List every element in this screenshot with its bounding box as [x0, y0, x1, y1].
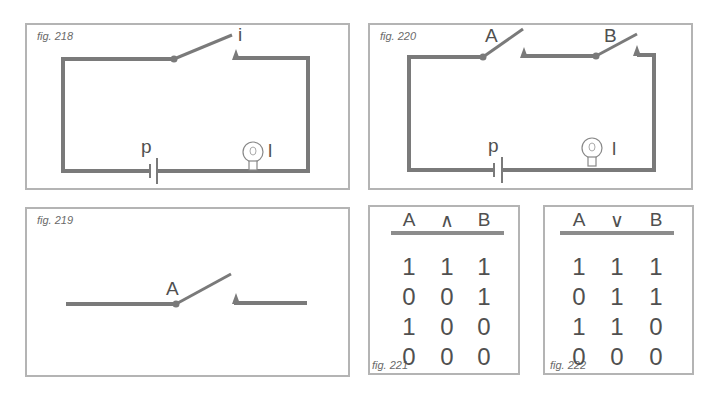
cell: 1 — [641, 283, 671, 311]
cell: 0 — [641, 313, 671, 341]
figure-220-panel: fig. 220 — [368, 23, 693, 190]
cell: 1 — [469, 253, 499, 281]
header-a: A — [394, 209, 424, 231]
cell: 1 — [641, 253, 671, 281]
cell: 0 — [394, 283, 424, 311]
cell: 1 — [394, 253, 424, 281]
cell: 1 — [394, 313, 424, 341]
header-or-operator: ∨ — [602, 209, 632, 232]
cell: 0 — [432, 313, 462, 341]
cell: 1 — [469, 283, 499, 311]
switch-pivot-icon — [171, 56, 178, 63]
cell: 0 — [394, 343, 424, 371]
cell: 0 — [564, 343, 594, 371]
cell: 0 — [641, 343, 671, 371]
header-a: A — [564, 209, 594, 231]
header-rule — [391, 231, 504, 235]
lamp-label: l — [612, 138, 616, 160]
cell: 1 — [602, 283, 632, 311]
switch-b-label: B — [604, 25, 617, 47]
header-and-operator: ∧ — [432, 209, 462, 232]
cell: 1 — [564, 253, 594, 281]
cell: 1 — [432, 253, 462, 281]
cell: 0 — [469, 343, 499, 371]
figure-219-panel: fig. 219 — [25, 207, 350, 377]
figure-label: fig. 219 — [37, 214, 73, 226]
switch-a-label: A — [485, 25, 498, 47]
battery-label: p — [488, 135, 499, 157]
header-rule — [560, 231, 674, 235]
switch-label: A — [166, 278, 179, 300]
figure-label: fig. 220 — [380, 30, 416, 42]
cell: 0 — [432, 343, 462, 371]
switch-label: i — [238, 24, 242, 46]
header-b: B — [641, 209, 671, 231]
battery-label: p — [141, 136, 152, 158]
cell: 1 — [602, 313, 632, 341]
lamp-label: l — [268, 140, 272, 162]
lamp-icon — [243, 142, 263, 170]
cell: 1 — [564, 313, 594, 341]
cell: 0 — [564, 283, 594, 311]
cell: 0 — [469, 313, 499, 341]
header-b: B — [469, 209, 499, 231]
switch-contact-icon — [232, 49, 240, 60]
cell: 0 — [432, 283, 462, 311]
cell: 1 — [602, 253, 632, 281]
cell: 0 — [602, 343, 632, 371]
